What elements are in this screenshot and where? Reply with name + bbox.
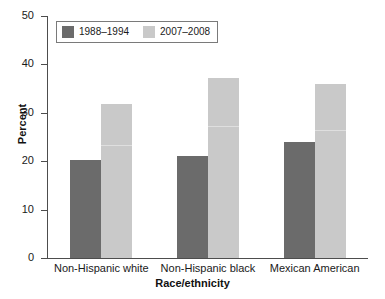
legend-label-series-1: 1988–1994 [79, 27, 129, 37]
y-axis-tick [41, 161, 47, 162]
y-axis-tick-label: 0 [0, 252, 34, 263]
bar-chart: 01020304050 Percent Non-Hispanic whiteNo… [0, 0, 385, 299]
x-axis-title: Race/ethnicity [0, 277, 385, 289]
bar-series-1 [70, 160, 101, 258]
bar-series-2 [315, 84, 346, 258]
y-axis-tick [41, 16, 47, 17]
legend-label-series-2: 2007–2008 [160, 27, 210, 37]
raster-artifact-line [101, 145, 132, 146]
raster-artifact-line [315, 130, 346, 131]
x-axis-line [47, 258, 368, 259]
legend-swatch-icon-series-1 [62, 26, 74, 38]
y-axis-tick [41, 64, 47, 65]
x-axis-category-label: Mexican American [261, 262, 368, 275]
legend-item-series-1: 1988–1994 [62, 26, 129, 38]
x-axis-category-label: Non-Hispanic white [48, 262, 155, 275]
bar-series-1 [284, 142, 315, 258]
y-axis-tick-label: 10 [0, 204, 34, 215]
bar-series-1 [177, 156, 208, 258]
y-axis-tick [41, 113, 47, 114]
x-axis-category-label: Non-Hispanic black [155, 262, 262, 275]
plot-bars [48, 16, 368, 258]
y-axis-tick-label: 40 [0, 58, 34, 69]
y-axis-tick-label: 50 [0, 10, 34, 21]
bar-series-2 [208, 78, 239, 258]
y-axis-tick [41, 210, 47, 211]
y-axis-tick [41, 258, 47, 259]
bar-group [284, 16, 346, 258]
raster-artifact-line [208, 126, 239, 127]
legend-item-series-2: 2007–2008 [143, 26, 210, 38]
y-axis-title: Percent [16, 79, 28, 169]
legend-swatch-icon-series-2 [143, 26, 155, 38]
legend: 1988–1994 2007–2008 [56, 21, 218, 43]
bar-group [177, 16, 239, 258]
bar-group [70, 16, 132, 258]
bar-series-2 [101, 104, 132, 258]
